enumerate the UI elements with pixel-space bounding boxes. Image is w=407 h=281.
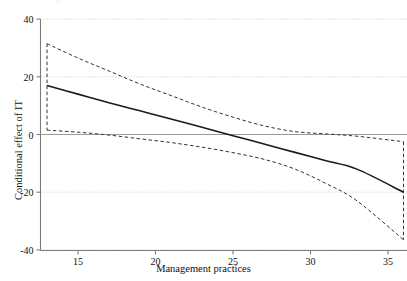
y-tick-label-20: 20 [24, 71, 34, 82]
y-axis-label: Conditional effect of IT [13, 100, 24, 200]
y-tick-label-0: 0 [29, 129, 34, 140]
y-tick-label-40: 40 [24, 14, 34, 25]
confidence-band-group [47, 44, 404, 240]
y-tick-label--20: -20 [20, 187, 33, 198]
effect-line [47, 85, 404, 192]
upper-confidence-curve [47, 44, 404, 142]
x-tick-label-35: 35 [383, 256, 393, 267]
x-tick-label-25: 25 [228, 256, 238, 267]
lower-confidence-curve [47, 130, 404, 240]
conditional-effect-line [47, 85, 404, 192]
x-tick-label-30: 30 [306, 256, 316, 267]
chart-plot-area [0, 0, 407, 281]
x-tick-label-15: 15 [73, 256, 83, 267]
x-tick-label-20: 20 [151, 256, 161, 267]
y-tick-label--40: -40 [20, 244, 33, 255]
x-axis-label: Management practices [0, 263, 407, 274]
tick-marks-group [37, 19, 389, 254]
figure-container: p Conditional effect of IT Management pr… [0, 0, 407, 281]
